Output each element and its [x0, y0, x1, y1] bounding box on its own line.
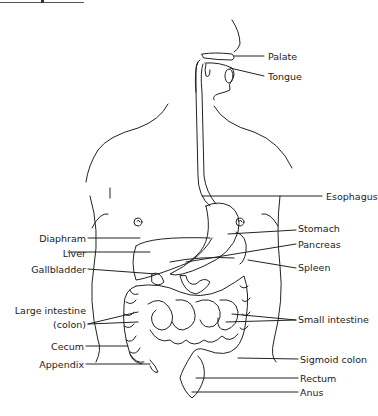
- label-liver: Liver: [0, 248, 86, 259]
- head-outline: [196, 20, 240, 100]
- label-spleen: Spleen: [298, 262, 330, 273]
- nipples: [134, 218, 244, 226]
- diaphragm: [136, 238, 210, 246]
- label-cecum: Cecum: [0, 341, 84, 352]
- label-esophagus: Esophagus: [326, 191, 378, 202]
- sigmoid-colon: [192, 348, 236, 354]
- gallbladder: [152, 273, 164, 285]
- label-diaphram: Diaphram: [0, 233, 86, 244]
- rectum: [180, 354, 204, 398]
- label-gallbladder: Gallbladder: [0, 264, 86, 275]
- esophagus: [195, 62, 216, 206]
- spleen: [236, 232, 246, 264]
- label-palate: Palate: [268, 51, 297, 62]
- label-rectum: Rectum: [300, 373, 336, 384]
- label-stomach: Stomach: [298, 223, 340, 234]
- label-tongue: Tongue: [268, 71, 302, 82]
- label-pancreas: Pancreas: [298, 239, 341, 250]
- label-anus: Anus: [300, 387, 324, 398]
- label-large-intestine: Large intestine: [0, 305, 86, 316]
- label-appendix: Appendix: [0, 359, 84, 370]
- label-colon: (colon): [0, 319, 86, 330]
- label-sigmoid-colon: Sigmoid colon: [300, 354, 367, 365]
- appendix: [150, 360, 158, 372]
- label-small-intestine: Small intestine: [298, 314, 369, 325]
- stomach: [170, 203, 239, 275]
- liver: [133, 238, 212, 280]
